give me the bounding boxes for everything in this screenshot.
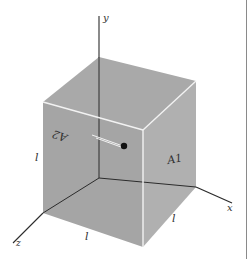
edge-label-left: l bbox=[35, 151, 39, 164]
cube-diagram: y x z A2 A1 l l l bbox=[0, 0, 252, 259]
edge-label-bottom-front: l bbox=[85, 230, 89, 243]
x-axis bbox=[196, 187, 232, 203]
particle-dot bbox=[121, 143, 127, 149]
edge-label-bottom-right: l bbox=[172, 212, 176, 225]
z-axis-label: z bbox=[15, 238, 21, 248]
x-axis-label: x bbox=[227, 202, 233, 213]
page-edge-rule bbox=[246, 0, 247, 259]
y-axis-label: y bbox=[102, 12, 109, 23]
face-label-a1: A1 bbox=[165, 152, 183, 168]
